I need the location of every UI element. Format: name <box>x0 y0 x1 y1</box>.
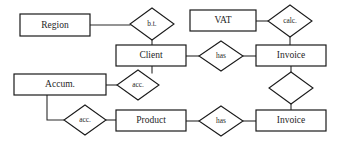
entity-label-vat: VAT <box>214 15 231 25</box>
relationship-acc-mid[interactable]: acc. <box>117 70 159 100</box>
entity-product[interactable]: Product <box>116 110 186 131</box>
entity-label-client: Client <box>139 50 163 60</box>
entity-accum[interactable]: Accum. <box>14 74 106 95</box>
relationship-label-calc: calc. <box>283 16 297 25</box>
er-diagram-canvas: RegionVATClientInvoiceAccum.ProductInvoi… <box>0 0 339 142</box>
relationship-bt[interactable]: b.t. <box>130 8 174 40</box>
entity-client[interactable]: Client <box>116 45 186 66</box>
entity-invoice2[interactable]: Invoice <box>256 110 326 131</box>
entity-label-invoice1: Invoice <box>277 50 306 60</box>
relationship-label-has-top: has <box>216 51 226 60</box>
relationship-label-acc-mid: acc. <box>132 80 144 89</box>
entity-vat[interactable]: VAT <box>190 10 256 31</box>
relationship-diamond-inv-link <box>269 72 313 104</box>
relationship-label-acc-low: acc. <box>79 115 91 124</box>
entity-label-accum: Accum. <box>45 79 75 89</box>
nodes-layer: RegionVATClientInvoiceAccum.ProductInvoi… <box>14 5 326 136</box>
entity-label-product: Product <box>136 115 166 125</box>
relationship-has-top[interactable]: has <box>199 41 243 71</box>
relationship-inv-link[interactable] <box>269 72 313 104</box>
entity-label-invoice2: Invoice <box>277 115 306 125</box>
relationship-label-has-bot: has <box>216 116 226 125</box>
relationship-acc-low[interactable]: acc. <box>64 105 106 135</box>
edge-accum-acclow <box>47 95 64 120</box>
relationship-label-bt: b.t. <box>147 19 157 28</box>
entity-invoice1[interactable]: Invoice <box>256 45 326 66</box>
relationship-calc[interactable]: calc. <box>268 5 312 37</box>
er-diagram-svg: RegionVATClientInvoiceAccum.ProductInvoi… <box>0 0 339 142</box>
entity-label-region: Region <box>41 20 69 30</box>
relationship-has-bot[interactable]: has <box>199 106 243 136</box>
entity-region[interactable]: Region <box>20 14 90 36</box>
